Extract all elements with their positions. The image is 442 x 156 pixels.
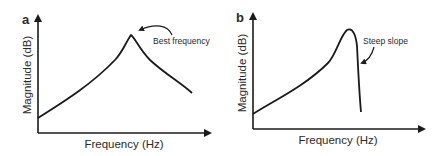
figure-labels: a Frequency (Hz) Magnitude (dB) Best fre… bbox=[0, 0, 442, 156]
annotation-steep-slope: Steep slope bbox=[363, 36, 408, 46]
panel-label-b: b bbox=[236, 10, 244, 25]
x-axis-label-b: Frequency (Hz) bbox=[298, 134, 377, 146]
x-axis-label-a: Frequency (Hz) bbox=[84, 138, 163, 150]
y-axis-label-a: Magnitude (dB) bbox=[21, 36, 33, 115]
annotation-best-frequency: Best frequency bbox=[153, 36, 210, 46]
panel-label-a: a bbox=[22, 12, 30, 27]
y-axis-label-b: Magnitude (dB) bbox=[236, 34, 248, 113]
